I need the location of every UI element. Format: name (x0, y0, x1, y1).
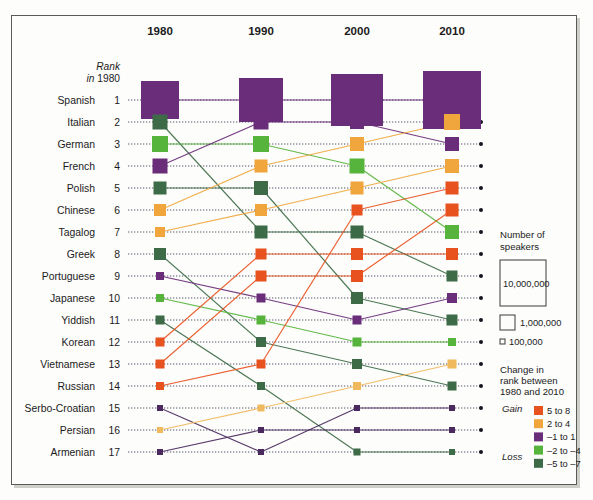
marker-german-2010[interactable] (445, 225, 459, 239)
legend-change-swatch-0[interactable] (534, 406, 543, 415)
marker-vietnamese-1980[interactable] (156, 360, 165, 369)
marker-spanish-1980[interactable] (141, 81, 179, 119)
legend-change-swatch-4[interactable] (534, 459, 543, 468)
rank-number-16: 16 (108, 425, 120, 436)
marker-serbo-croatian-2010[interactable] (449, 405, 455, 411)
language-label-vietnamese: Vietnamese (40, 359, 95, 370)
legend-change-swatch-1[interactable] (534, 419, 543, 428)
marker-serbo-croatian-1980[interactable] (157, 405, 163, 411)
marker-yiddish-2010[interactable] (449, 449, 455, 455)
marker-french-1990[interactable] (254, 115, 269, 130)
year-header-1990: 1990 (248, 25, 274, 37)
slope-segment-greek-1 (261, 342, 357, 364)
marker-yiddish-1990[interactable] (257, 382, 265, 390)
marker-tagalog-1990[interactable] (255, 204, 267, 216)
language-label-armenian: Armenian (51, 447, 96, 458)
marker-japanese-1990[interactable] (257, 316, 266, 325)
row-end-dot-5 (479, 186, 483, 190)
marker-portuguese-1980[interactable] (156, 272, 164, 280)
language-label-chinese: Chinese (57, 205, 95, 216)
marker-russian-1980[interactable] (156, 382, 164, 390)
marker-german-1980[interactable] (152, 136, 168, 152)
marker-japanese-2010[interactable] (448, 338, 456, 346)
marker-tagalog-1980[interactable] (155, 227, 165, 237)
marker-russian-1990[interactable] (257, 360, 266, 369)
year-header-2010: 2010 (439, 25, 465, 37)
language-label-yiddish: Yiddish (61, 315, 95, 326)
marker-greek-1980[interactable] (154, 248, 166, 260)
marker-portuguese-2000[interactable] (353, 316, 362, 325)
marker-chinese-2010[interactable] (444, 114, 460, 130)
marker-russian-2000[interactable] (352, 205, 363, 216)
language-label-portuguese: Portuguese (42, 271, 95, 282)
marker-persian-1980[interactable] (157, 427, 163, 433)
marker-polish-1980[interactable] (154, 182, 167, 195)
marker-persian-2010[interactable] (448, 360, 457, 369)
marker-serbo-croatian-2000[interactable] (354, 405, 360, 411)
marker-tagalog-2000[interactable] (351, 182, 364, 195)
slope-segment-portuguese-1 (261, 298, 357, 320)
marker-serbo-croatian-1990[interactable] (258, 449, 264, 455)
marker-vietnamese-1990[interactable] (256, 271, 267, 282)
marker-armenian-2010[interactable] (449, 427, 455, 433)
marker-polish-1990[interactable] (254, 181, 268, 195)
marker-persian-2000[interactable] (353, 382, 361, 390)
marker-french-1980[interactable] (153, 159, 168, 174)
marker-russian-2010[interactable] (446, 182, 459, 195)
marker-yiddish-1980[interactable] (156, 316, 165, 325)
legend-change-label-2: –1 to 1 (547, 432, 575, 442)
marker-korean-2000[interactable] (351, 248, 363, 260)
marker-portuguese-2010[interactable] (447, 293, 457, 303)
marker-tagalog-2010[interactable] (445, 159, 459, 173)
marker-german-2000[interactable] (350, 159, 365, 174)
marker-armenian-1990[interactable] (258, 427, 264, 433)
row-end-dot-4 (479, 164, 483, 168)
marker-greek-1990[interactable] (256, 337, 266, 347)
marker-vietnamese-2010[interactable] (446, 204, 459, 217)
marker-german-1990[interactable] (253, 136, 269, 152)
marker-vietnamese-2000[interactable] (351, 270, 363, 282)
legend-change-label-1: 2 to 4 (547, 419, 570, 429)
row-end-dot-16 (479, 428, 483, 432)
marker-korean-2010[interactable] (446, 248, 458, 260)
marker-armenian-2000[interactable] (354, 427, 360, 433)
rank-number-6: 6 (114, 205, 120, 216)
legend-size-box-1000000 (500, 315, 515, 330)
rank-number-8: 8 (114, 249, 120, 260)
marker-korean-1980[interactable] (156, 338, 165, 347)
legend-change-swatch-2[interactable] (534, 432, 543, 441)
marker-greek-2010[interactable] (448, 382, 457, 391)
marker-chinese-1990[interactable] (255, 160, 268, 173)
legend-size-title-1: Number of (500, 229, 545, 240)
marker-italian-2000[interactable] (351, 226, 364, 239)
marker-chinese-2000[interactable] (350, 137, 364, 151)
marker-yiddish-2000[interactable] (354, 449, 361, 456)
marker-japanese-1980[interactable] (156, 294, 164, 302)
marker-armenian-1980[interactable] (157, 449, 163, 455)
marker-italian-1980[interactable] (153, 115, 168, 130)
marker-polish-2010[interactable] (447, 315, 458, 326)
language-label-italian: Italian (67, 117, 95, 128)
marker-japanese-2000[interactable] (353, 338, 362, 347)
marker-italian-1990[interactable] (255, 226, 268, 239)
marker-portuguese-1990[interactable] (257, 294, 266, 303)
marker-french-2010[interactable] (445, 137, 459, 151)
marker-korean-1990[interactable] (256, 249, 267, 260)
rank-number-4: 4 (114, 161, 120, 172)
marker-persian-1990[interactable] (258, 405, 265, 412)
marker-polish-2000[interactable] (351, 292, 363, 304)
marker-french-2000[interactable] (350, 115, 364, 129)
language-label-persian: Persian (60, 425, 95, 436)
marker-greek-2000[interactable] (352, 359, 362, 369)
slope-segment-tagalog-2 (357, 166, 452, 188)
row-end-dot-6 (479, 208, 483, 212)
language-label-korean: Korean (61, 337, 95, 348)
legend-change-swatch-3[interactable] (534, 446, 543, 455)
legend-change-title-2: rank between (500, 375, 558, 386)
slope-segment-yiddish-1 (261, 386, 357, 452)
slope-segment-yiddish-0 (160, 320, 261, 386)
marker-italian-2010[interactable] (447, 271, 458, 282)
rank-number-17: 17 (108, 447, 120, 458)
row-end-dot-15 (479, 406, 483, 410)
marker-chinese-1980[interactable] (154, 204, 166, 216)
